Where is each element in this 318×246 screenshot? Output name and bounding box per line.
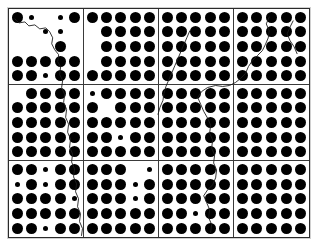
dot-3-2 (176, 41, 187, 52)
dot-4-2 (101, 132, 112, 143)
cell-r2c2 (84, 85, 159, 161)
dot-4-1 (162, 208, 173, 219)
dot-slot (264, 25, 279, 40)
dot-3-3 (266, 117, 277, 128)
dot-slot (160, 101, 174, 116)
dot-slot (39, 68, 53, 83)
dot-slot (128, 144, 142, 159)
dot-2-2 (251, 26, 262, 37)
dot-slot (250, 39, 265, 54)
dot-3-1 (87, 117, 98, 128)
dot-slot (235, 162, 250, 177)
dot-slot (10, 101, 24, 116)
dot-2-4 (281, 26, 292, 37)
dot-slot (114, 39, 128, 54)
dot-5-4 (281, 70, 292, 81)
dot-slot (189, 192, 203, 207)
dot-1-3 (190, 12, 201, 23)
dot-5-1 (12, 223, 23, 234)
dot-1-4 (281, 88, 292, 99)
dot-slot (99, 192, 113, 207)
dot-slot (53, 68, 67, 83)
dot-slot (99, 54, 113, 69)
dot-slot (203, 39, 217, 54)
dot-slot (24, 206, 38, 221)
dot-slot (189, 115, 203, 130)
dot-slot (264, 39, 279, 54)
dot-slot (264, 115, 279, 130)
dot-5-1 (237, 223, 248, 234)
dot-2-4 (58, 29, 63, 34)
dot-1-5 (295, 12, 306, 23)
dot-1-5 (144, 12, 155, 23)
dot-slot (189, 68, 203, 83)
dot-4-5 (295, 132, 306, 143)
dot-3-3 (266, 41, 277, 52)
dot-5-3 (115, 146, 126, 157)
dot-slot (128, 162, 142, 177)
dot-slot (279, 68, 294, 83)
dot-slot (203, 221, 217, 236)
dot-slot (99, 206, 113, 221)
dot-slot (235, 10, 250, 25)
dot-2-3 (266, 179, 277, 190)
dot-1-3 (43, 167, 48, 172)
dot-slot (174, 206, 188, 221)
dot-slot (143, 54, 157, 69)
dot-slot (99, 68, 113, 83)
dot-slot (39, 10, 53, 25)
dot-slot (53, 86, 67, 101)
dot-slot (114, 10, 128, 25)
dot-slot (203, 25, 217, 40)
dot-5-1 (12, 70, 23, 81)
dot-slot (53, 144, 67, 159)
dot-slot (174, 192, 188, 207)
dot-3-4 (55, 41, 66, 52)
dot-2-5 (295, 26, 306, 37)
dot-slot (218, 39, 232, 54)
dot-slot (53, 130, 67, 145)
dot-1-5 (144, 88, 155, 99)
dot-slot (174, 101, 188, 116)
dot-5-1 (162, 223, 173, 234)
dot-grid (234, 85, 309, 160)
dot-2-3 (115, 26, 126, 37)
dot-3-4 (55, 193, 66, 204)
dot-2-5 (144, 179, 155, 190)
dot-slot (203, 10, 217, 25)
dot-3-1 (162, 193, 173, 204)
cell-r1c4 (234, 9, 309, 85)
dot-grid (159, 9, 233, 84)
dot-1-3 (40, 88, 51, 99)
dot-slot (68, 144, 82, 159)
dot-2-4 (55, 102, 66, 113)
dot-4-4 (205, 208, 216, 219)
dot-4-4 (281, 208, 292, 219)
dot-slot (10, 10, 24, 25)
dot-slot (189, 162, 203, 177)
dot-3-3 (115, 41, 126, 52)
dot-slot (160, 162, 174, 177)
dot-4-4 (281, 132, 292, 143)
dot-2-1 (87, 102, 98, 113)
dot-2-5 (69, 102, 80, 113)
dot-5-2 (251, 146, 262, 157)
dot-slot (293, 162, 308, 177)
dot-slot (189, 177, 203, 192)
dot-5-5 (69, 146, 80, 157)
dot-5-1 (162, 70, 173, 81)
dot-1-5 (219, 88, 230, 99)
dot-slot (279, 130, 294, 145)
dot-5-1 (87, 146, 98, 157)
dot-1-3 (190, 88, 201, 99)
dot-slot (10, 162, 24, 177)
dot-2-5 (144, 26, 155, 37)
dot-3-2 (251, 193, 262, 204)
dot-1-2 (26, 164, 37, 175)
dot-slot (114, 206, 128, 221)
dot-1-1 (237, 12, 248, 23)
dot-slot (39, 86, 53, 101)
dot-5-3 (40, 146, 51, 157)
dot-5-1 (87, 70, 98, 81)
dot-5-3 (43, 226, 48, 231)
